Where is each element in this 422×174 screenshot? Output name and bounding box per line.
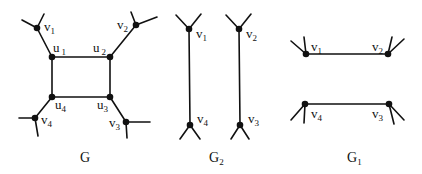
graph-G2: v1 v2 v3 v4 G2 [176,14,260,167]
label-v3: v3 [372,106,384,123]
graph-G1: v1 v2 v3 v4 G1 [291,37,404,167]
edge-v2-v3 [239,29,240,125]
node-v3 [123,119,130,126]
label-v2: v2 [117,17,128,34]
node-v1 [303,51,310,58]
label-v2: v2 [372,39,383,56]
node-v4 [32,115,39,122]
label-u1: u1 [53,40,66,57]
node-v3 [386,101,393,108]
edge-v1-v4 [189,29,190,125]
label-v2: v2 [246,26,257,43]
node-v3 [237,122,244,129]
caption-G1: G1 [347,150,362,167]
node-v2 [385,51,392,58]
node-v4 [302,101,309,108]
node-u3 [107,94,114,101]
label-u3: u3 [97,97,109,114]
label-u2: u2 [93,40,106,57]
label-v1: v1 [311,39,322,56]
node-v4 [187,122,194,129]
label-v3: v3 [109,115,121,132]
node-u2 [107,54,114,61]
label-v4: v4 [197,111,209,128]
node-v2 [133,22,140,29]
label-v1: v1 [196,26,207,43]
graph-G: v1 v2 v3 v4 u1 u2 u3 u4 G [19,12,157,165]
node-v2 [236,26,243,33]
half-edge [136,17,157,25]
node-v1 [34,25,41,32]
label-v1: v1 [44,19,55,36]
node-v1 [186,26,193,33]
label-v4: v4 [311,106,323,123]
caption-G2: G2 [209,150,224,167]
label-v4: v4 [41,112,53,129]
label-u4: u4 [55,97,67,114]
caption-G: G [80,150,90,165]
label-v3: v3 [248,111,260,128]
graph-diagram: v1 v2 v3 v4 u1 u2 u3 u4 G v1 v2 v3 v4 [0,0,422,174]
